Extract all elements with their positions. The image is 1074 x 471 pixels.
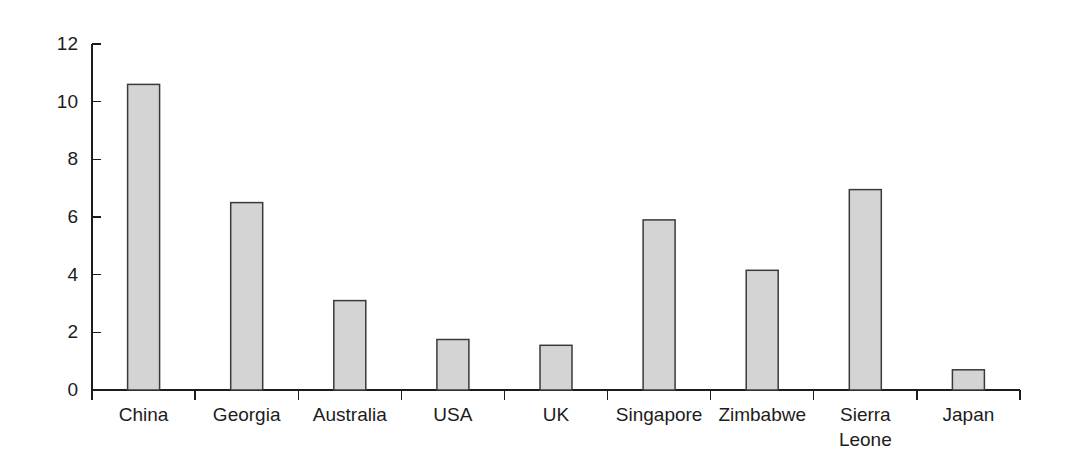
x-tick-label: USA [433, 404, 472, 425]
bar-uk [540, 345, 572, 390]
y-tick-label: 4 [67, 264, 78, 285]
x-tick-label: China [119, 404, 169, 425]
x-tick-label: SierraLeone [839, 404, 892, 450]
x-tick-label: UK [543, 404, 570, 425]
x-tick-label: Singapore [616, 404, 703, 425]
bar-singapore [643, 220, 675, 390]
x-tick-label: Australia [313, 404, 387, 425]
bar-china [128, 84, 160, 390]
y-axis: 024681012 [57, 33, 101, 400]
x-tick-label: Georgia [213, 404, 281, 425]
y-tick-label: 0 [67, 379, 78, 400]
y-tick-label: 6 [67, 206, 78, 227]
y-tick-label: 8 [67, 148, 78, 169]
bar-chart: 024681012ChinaGeorgiaAustraliaUSAUKSinga… [0, 0, 1074, 471]
bar-australia [334, 301, 366, 390]
y-tick-label: 10 [57, 91, 78, 112]
bar-japan [952, 370, 984, 390]
x-tick-label: Japan [943, 404, 995, 425]
chart-canvas: 024681012ChinaGeorgiaAustraliaUSAUKSinga… [0, 0, 1074, 471]
x-axis [92, 390, 1020, 400]
y-tick-label: 2 [67, 321, 78, 342]
x-tick-label: Zimbabwe [718, 404, 806, 425]
bars-group [128, 84, 985, 390]
bar-georgia [231, 203, 263, 390]
bar-sierra-leone [849, 190, 881, 390]
x-tick-labels: ChinaGeorgiaAustraliaUSAUKSingaporeZimba… [119, 404, 995, 450]
bar-usa [437, 340, 469, 391]
y-tick-label: 12 [57, 33, 78, 54]
bar-zimbabwe [746, 270, 778, 390]
